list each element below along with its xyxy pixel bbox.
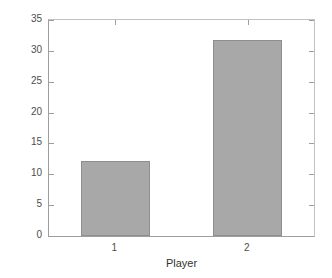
y-axis-tick-label: 25	[31, 76, 42, 86]
y-axis-tick-label: 10	[31, 168, 42, 178]
y-axis-tick-labels: 05101520253035	[0, 19, 42, 237]
x-axis-tick-label: 2	[244, 243, 250, 253]
y-axis-tick-mark	[309, 236, 314, 237]
y-axis-tick-label: 30	[31, 45, 42, 55]
x-axis-tick-label: 1	[111, 243, 117, 253]
y-axis-tick-label: 0	[36, 230, 42, 240]
bar	[213, 40, 282, 236]
y-axis-tick-label: 15	[31, 137, 42, 147]
y-axis-tick-label: 35	[31, 14, 42, 24]
x-axis-title: Player	[48, 258, 315, 269]
bar-chart-figure: 05101520253035 12 Player Cost	[0, 0, 332, 278]
bars-layer	[49, 20, 314, 236]
y-axis-tick-mark	[49, 236, 54, 237]
y-axis-tick-label: 20	[31, 107, 42, 117]
plot-area	[48, 19, 315, 237]
y-axis-tick-label: 5	[36, 199, 42, 209]
bar	[81, 161, 150, 236]
x-axis-tick-labels: 12	[48, 243, 315, 257]
